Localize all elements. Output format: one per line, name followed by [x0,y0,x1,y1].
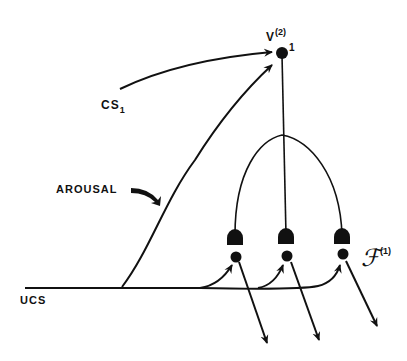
f1-node-3 [338,249,349,260]
f1-node-1 [231,252,242,263]
arch-branch [235,135,342,235]
ucs-branch-1 [200,265,232,288]
v-node-label: V(2) [266,30,286,44]
cs1-pathway [120,52,272,89]
arousal-indicator-arrow [131,188,161,206]
diagram-canvas [0,0,407,361]
f1-node-2 [282,251,293,262]
output-arrow-1 [239,262,267,343]
f1-field-label: ℱ(1) [361,244,391,272]
v-vertical-line [282,55,286,235]
v-node-subscript: 1 [289,42,296,53]
gate-2 [278,228,294,244]
cs1-label: CS1 [101,98,125,112]
gate-1 [227,229,243,245]
gate-3 [334,228,350,244]
output-arrow-2 [291,262,319,340]
arousal-label: AROUSAL [56,183,117,195]
ucs-label: UCS [20,294,46,306]
ucs-branch-2 [258,265,283,288]
arousal-pathway [122,65,272,287]
v-node [276,47,288,59]
